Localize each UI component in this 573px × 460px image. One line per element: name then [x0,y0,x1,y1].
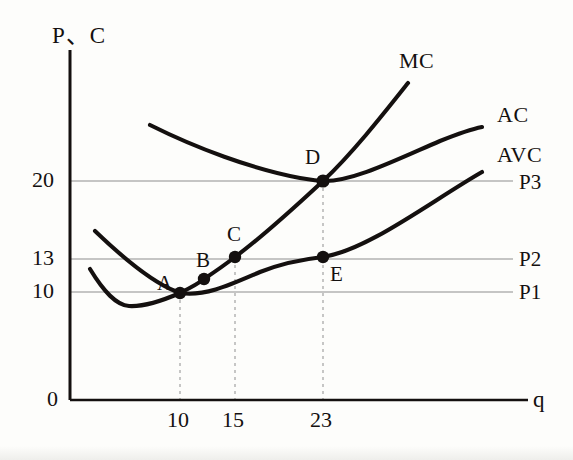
y-tick-13: 13 [32,247,54,269]
point-label-c: C [227,224,241,245]
curve-label-mc: MC [399,50,434,72]
x-tick-10: 10 [167,409,189,431]
data-point-a [174,287,186,299]
cost-curve-figure: P、C q 0 20 13 10 10 15 23 MC AC AVC P3 P… [0,0,573,460]
x-tick-23: 23 [310,409,332,431]
y-tick-20: 20 [32,169,54,191]
plot-canvas [0,0,573,460]
point-label-e: E [330,264,343,285]
x-tick-15: 15 [222,409,244,431]
y-tick-10: 10 [32,280,54,302]
curve-mc [90,83,408,306]
point-label-b: B [196,250,210,271]
price-label-p1: P1 [519,282,541,303]
price-label-p3: P3 [519,172,541,193]
curve-avc [95,172,482,294]
point-label-d: D [305,147,320,168]
curve-label-avc: AVC [497,144,542,166]
data-point-e [317,251,329,263]
curve-label-ac: AC [497,104,529,126]
data-point-c [229,251,241,263]
y-axis-title: P、C [52,24,106,47]
price-label-p2: P2 [519,249,541,270]
origin-label: 0 [47,388,58,410]
point-label-a: A [157,273,172,294]
data-point-b [198,273,210,285]
data-point-d [316,174,329,187]
x-axis-title: q [533,388,546,411]
